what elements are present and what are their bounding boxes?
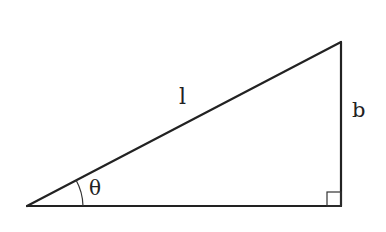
triangle bbox=[27, 42, 341, 206]
opposite-side-label: b bbox=[352, 98, 365, 122]
angle-label: θ bbox=[89, 176, 101, 200]
right-triangle-diagram: l b θ bbox=[0, 0, 386, 232]
angle-arc-icon bbox=[76, 180, 83, 206]
hypotenuse-label: l bbox=[179, 84, 186, 109]
hypotenuse-line bbox=[27, 42, 341, 206]
right-angle-marker-icon bbox=[327, 192, 341, 206]
